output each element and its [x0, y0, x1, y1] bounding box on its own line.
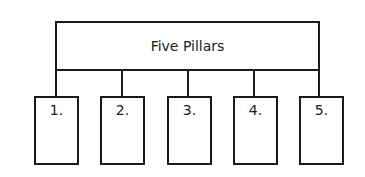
connector-line-2	[121, 71, 123, 97]
connector-line-1	[55, 71, 57, 97]
connector-line-3	[187, 71, 189, 97]
pillar-label: 3.	[183, 102, 196, 118]
pillar-box-3: 3.	[167, 96, 212, 165]
pillar-label: 1.	[50, 102, 63, 118]
pillar-label: 5.	[315, 102, 328, 118]
five-pillars-header-box: Five Pillars	[55, 21, 320, 71]
header-title: Five Pillars	[151, 38, 225, 54]
pillar-label: 2.	[116, 102, 129, 118]
pillar-label: 4.	[249, 102, 262, 118]
pillar-box-2: 2.	[100, 96, 145, 165]
pillar-box-4: 4.	[233, 96, 278, 165]
connector-line-4	[253, 71, 255, 97]
pillar-box-1: 1.	[34, 96, 79, 165]
connector-line-5	[318, 71, 320, 97]
pillar-box-5: 5.	[299, 96, 344, 165]
